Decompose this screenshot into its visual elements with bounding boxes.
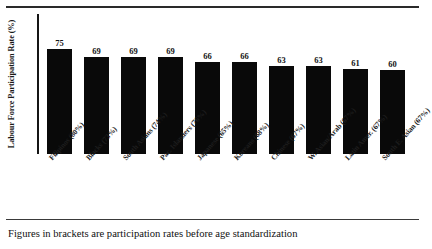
bar-value-label: 61 — [336, 58, 376, 68]
bottom-rule — [6, 219, 419, 220]
y-axis-title: Labour Force Participation Rate (%) — [7, 9, 16, 159]
bar-series: 75696969666663636160 — [47, 14, 415, 154]
bar-value-label: 63 — [262, 55, 302, 65]
bar-value-label: 75 — [40, 38, 80, 48]
bar-value-label: 66 — [225, 51, 265, 61]
top-rule — [6, 6, 419, 8]
x-axis-tick-labels: Filipinos (80%)Blacks (73%)South Asians … — [47, 156, 425, 218]
bar-value-label: 60 — [373, 59, 413, 69]
bar-value-label: 63 — [299, 55, 339, 65]
bar-value-label: 69 — [114, 46, 154, 56]
bar-value-label: 69 — [151, 46, 191, 56]
bar-value-label: 69 — [77, 46, 117, 56]
figure-caption: Figures in brackets are participation ra… — [8, 228, 297, 239]
bar-value-label: 66 — [188, 51, 228, 61]
y-axis-spine — [37, 14, 39, 154]
